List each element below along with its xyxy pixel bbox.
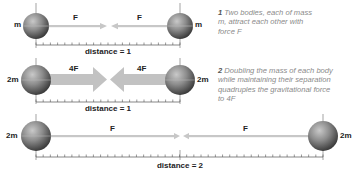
panel-3 — [21, 114, 338, 160]
panel-1 — [23, 3, 193, 48]
force-label-left: F — [110, 124, 115, 133]
caption-number: 2 — [218, 66, 222, 75]
ruler-3 — [36, 155, 323, 158]
distance-label: distance = 1 — [85, 47, 131, 56]
force-label-right: F — [243, 124, 248, 133]
force-arrow-left — [111, 23, 172, 29]
force-arrow-right — [48, 133, 180, 139]
distance-label: distance = 2 — [157, 161, 203, 170]
force-label-left: 4F — [69, 64, 78, 73]
caption-2: 2 Doubling the mass of each body while m… — [218, 66, 338, 104]
panel-2 — [21, 58, 195, 104]
gravity-diagram: m m F F distance = 1 1 Two bodies, each … — [0, 0, 354, 174]
force-label-left: F — [73, 13, 78, 22]
force-label-right: F — [137, 13, 142, 22]
force-label-right: 4F — [137, 64, 146, 73]
mass-label-right: 2m — [197, 75, 209, 84]
mass-label-left: 2m — [7, 75, 19, 84]
force-arrow-right — [44, 23, 107, 29]
caption-1: 1 Two bodies, each of mass m, attract ea… — [218, 8, 318, 36]
force-arrow-left — [183, 133, 311, 139]
caption-text: Doubling the mass of each body while mai… — [218, 66, 333, 103]
mass-label-left: m — [14, 20, 21, 29]
mass-label-right: m — [195, 20, 202, 29]
mass-label-right: 2m — [340, 131, 352, 140]
planet-right — [308, 121, 338, 151]
ruler-2 — [36, 100, 180, 103]
ruler-1 — [36, 43, 180, 46]
caption-text: Two bodies, each of mass m, attract each… — [218, 8, 312, 36]
mass-label-left: 2m — [6, 131, 18, 140]
caption-number: 1 — [218, 8, 222, 17]
distance-label: distance = 1 — [85, 104, 131, 113]
